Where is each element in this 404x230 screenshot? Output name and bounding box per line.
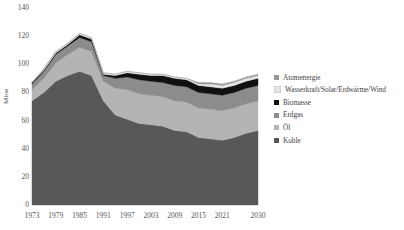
chart-legend: AtomenergieWasserkraft/Solar/Erdwärme/Wi… bbox=[274, 71, 404, 147]
legend-label: Wasserkraft/Solar/Erdwärme/Wind bbox=[285, 86, 386, 93]
legend-label: Erdgas bbox=[283, 111, 303, 118]
stacked-area-chart: Mtoe 020406080100120140 1973197919851991… bbox=[0, 0, 404, 230]
legend-label: Öl bbox=[283, 124, 290, 131]
x-tick-label: 2021 bbox=[207, 212, 237, 220]
legend-item[interactable]: Biomasse bbox=[274, 96, 404, 109]
legend-label: Kohle bbox=[283, 137, 301, 144]
legend-item[interactable]: Öl bbox=[274, 121, 404, 134]
legend-swatch-icon bbox=[274, 100, 279, 105]
legend-label: Atomenergie bbox=[283, 74, 320, 81]
legend-swatch-icon bbox=[274, 75, 279, 80]
legend-item[interactable]: Atomenergie bbox=[274, 71, 404, 84]
legend-item[interactable]: Kohle bbox=[274, 134, 404, 147]
legend-swatch-icon bbox=[274, 86, 281, 93]
legend-swatch-icon bbox=[274, 125, 279, 130]
legend-item[interactable]: Wasserkraft/Solar/Erdwärme/Wind bbox=[274, 84, 404, 97]
legend-swatch-icon bbox=[274, 113, 279, 118]
legend-swatch-icon bbox=[274, 138, 279, 143]
legend-item[interactable]: Erdgas bbox=[274, 109, 404, 122]
legend-label: Biomasse bbox=[283, 99, 311, 106]
x-tick-label: 2030 bbox=[243, 212, 273, 220]
